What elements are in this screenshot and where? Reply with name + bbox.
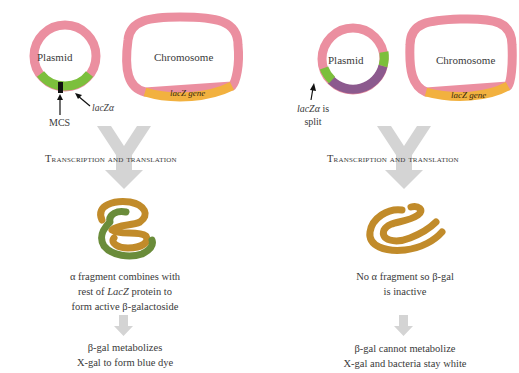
right-small-down-arrow-icon xyxy=(394,315,413,336)
left-result-line3: form active β-galactoside xyxy=(70,299,180,314)
lacz-split-line2: split xyxy=(297,115,329,128)
left-plasmid-label: Plasmid xyxy=(37,51,72,63)
left-result-line2-pre: rest of xyxy=(78,286,107,297)
left-result-line2-lacz: LacZ xyxy=(107,286,129,297)
left-process-label: Transcription and translation xyxy=(45,153,177,164)
right-result-line2: is inactive xyxy=(356,284,454,299)
lacz-split-arrow-icon xyxy=(310,83,316,100)
right-chromosome-label: Chromosome xyxy=(436,54,495,66)
lacz-split-is: is xyxy=(320,103,329,114)
left-lacz-gene-label: lacZ gene xyxy=(170,88,205,98)
left-result-caption: α fragment combines with rest of LacZ pr… xyxy=(70,269,180,314)
right-process-label: Transcription and translation xyxy=(327,153,459,164)
right-inactive-protein-icon xyxy=(370,207,442,251)
left-chromosome-label: Chromosome xyxy=(154,51,213,63)
mcs-arrow-icon xyxy=(57,94,63,115)
lacz-alpha-arrow-icon xyxy=(75,93,90,106)
mcs-label: MCS xyxy=(49,117,70,128)
left-result-line1: α fragment combines with xyxy=(70,269,180,284)
left-result-line2: rest of LacZ protein to xyxy=(70,284,180,299)
left-outcome-caption: β-gal metabolizes X-gal to form blue dye xyxy=(77,340,173,370)
right-outcome-line2: X-gal and bacteria stay white xyxy=(343,356,466,371)
right-outcome-line1: β-gal cannot metabolize xyxy=(343,341,466,356)
lacz-split-alpha: lacZα xyxy=(297,103,320,114)
left-result-line2-post: protein to xyxy=(129,286,172,297)
left-small-down-arrow-icon xyxy=(114,315,133,336)
left-outcome-line1: β-gal metabolizes xyxy=(77,340,173,355)
left-outcome-line2: X-gal to form blue dye xyxy=(77,355,173,370)
right-result-line1: No α fragment so β-gal xyxy=(356,269,454,284)
right-outcome-caption: β-gal cannot metabolize X-gal and bacter… xyxy=(343,341,466,371)
right-lacz-gene-label: lacZ gene xyxy=(451,90,486,100)
lacz-split-label: lacZα is split xyxy=(297,102,329,128)
right-plasmid-label: Plasmid xyxy=(328,54,363,66)
right-result-caption: No α fragment so β-gal is inactive xyxy=(356,269,454,299)
left-active-protein-icon xyxy=(101,202,153,256)
lacz-alpha-label: lacZα xyxy=(92,103,114,113)
